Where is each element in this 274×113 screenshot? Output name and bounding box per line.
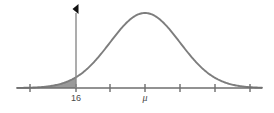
bell-curve	[17, 13, 262, 88]
left-pointing-triangle-marker-icon	[73, 4, 79, 14]
x-axis-label-mean: μ	[135, 92, 155, 103]
x-axis-label-cutoff: 16	[66, 93, 86, 103]
